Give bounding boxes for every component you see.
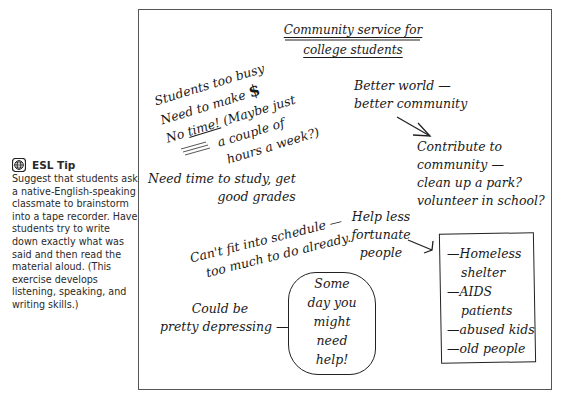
someday-line: Some xyxy=(290,274,374,293)
list-box-items: —Homeless shelter —AIDS patients —abused… xyxy=(447,244,535,358)
someday-line: need xyxy=(290,331,374,350)
someday-line: might xyxy=(290,312,374,331)
help-line-3: people xyxy=(349,244,413,262)
list-item: —AIDS xyxy=(447,282,535,301)
study-line-2: good grades xyxy=(148,188,296,206)
list-item: —Homeless xyxy=(447,244,535,263)
contribute-line-4: volunteer in school? xyxy=(417,192,545,210)
esl-tip-sidebar: ESL Tip Suggest that students ask a nati… xyxy=(12,158,138,312)
better-line-2: better community xyxy=(354,95,467,113)
globe-icon xyxy=(12,158,26,172)
note-help-less-fortunate: Help less fortunate people xyxy=(349,208,413,262)
contribute-line-1: Contribute to xyxy=(417,138,545,156)
help-line-2: fortunate xyxy=(349,226,413,244)
list-item: —abused kids xyxy=(447,320,535,339)
esl-tip-header: ESL Tip xyxy=(12,158,138,172)
someday-line: day you xyxy=(290,293,374,312)
someday-line: help! xyxy=(290,350,374,369)
depressing-line-1: Could be xyxy=(160,300,280,318)
dollar-symbol: $ xyxy=(246,80,262,101)
depressing-line-2: pretty depressing — xyxy=(160,318,280,336)
list-item: shelter xyxy=(447,263,535,282)
contribute-line-3: clean up a park? xyxy=(417,174,545,192)
contribute-line-2: community — xyxy=(417,156,545,174)
help-line-1: Help less xyxy=(349,208,413,226)
study-line-1: Need time to study, get xyxy=(148,170,296,188)
esl-tip-body: Suggest that students ask a native-Engli… xyxy=(12,173,138,312)
esl-tip-title: ESL Tip xyxy=(32,159,75,172)
list-item: patients xyxy=(447,301,535,320)
cluster-title: Community service for college students xyxy=(278,20,428,60)
list-item: —old people xyxy=(447,339,535,358)
better-line-1: Better world — xyxy=(354,77,467,95)
note-contribute: Contribute to community — clean up a par… xyxy=(417,138,545,210)
cluster-title-line-1: Community service for xyxy=(278,20,428,40)
note-could-be-depressing: Could be pretty depressing — xyxy=(160,300,280,336)
note-someday: Some day you might need help! xyxy=(290,274,374,369)
note-better-world: Better world — better community xyxy=(354,77,467,113)
cluster-title-line-2: college students xyxy=(278,40,428,60)
note-need-time-study: Need time to study, get good grades xyxy=(148,170,296,206)
